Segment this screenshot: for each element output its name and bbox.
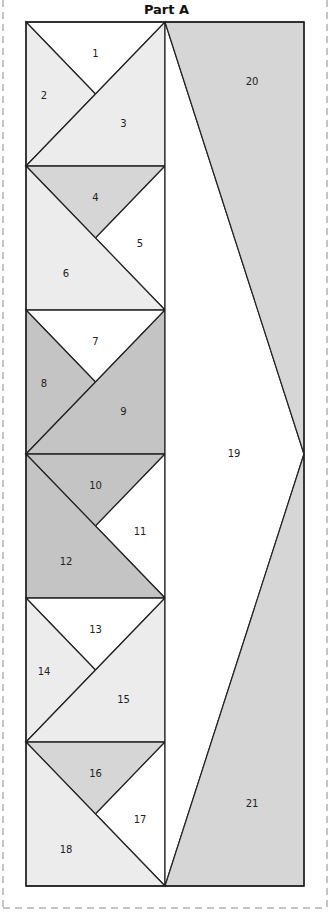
piece-label-3: 3 bbox=[120, 118, 126, 129]
piece-label-4: 4 bbox=[92, 192, 98, 203]
piece-label-19: 19 bbox=[228, 448, 241, 459]
piece-label-11: 11 bbox=[134, 526, 147, 537]
piece-label-10: 10 bbox=[89, 480, 102, 491]
piece-label-14: 14 bbox=[38, 666, 51, 677]
piece-label-7: 7 bbox=[92, 336, 98, 347]
piece-label-17: 17 bbox=[134, 814, 147, 825]
paper-piecing-diagram: 123456789101112131415161718192021 bbox=[0, 0, 333, 920]
piece-label-16: 16 bbox=[89, 768, 102, 779]
piece-label-20: 20 bbox=[246, 76, 259, 87]
piece-label-5: 5 bbox=[137, 238, 143, 249]
pattern-frame: Part A 123456789101112131415161718192021 bbox=[0, 0, 333, 920]
piece-label-8: 8 bbox=[41, 378, 47, 389]
piece-label-9: 9 bbox=[120, 406, 126, 417]
piece-label-15: 15 bbox=[117, 694, 130, 705]
piece-label-21: 21 bbox=[246, 798, 259, 809]
piece-label-12: 12 bbox=[60, 556, 73, 567]
piece-label-13: 13 bbox=[89, 624, 102, 635]
piece-label-18: 18 bbox=[60, 844, 73, 855]
piece-label-1: 1 bbox=[92, 48, 98, 59]
piece-label-6: 6 bbox=[63, 268, 69, 279]
piece-label-2: 2 bbox=[41, 90, 47, 101]
